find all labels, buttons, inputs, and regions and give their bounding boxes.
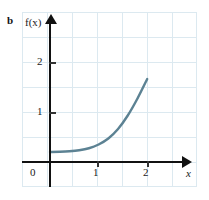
x-tick-label-0: 0 bbox=[30, 166, 36, 178]
y-tick-label-1: 1 bbox=[37, 105, 43, 117]
x-tick-label-1: 1 bbox=[93, 166, 99, 178]
x-tick-label-2: 2 bbox=[143, 166, 149, 178]
y-tick-label-2: 2 bbox=[37, 55, 43, 67]
y-axis-arrow-icon bbox=[45, 14, 57, 24]
y-axis-line bbox=[49, 24, 51, 187]
figure-panel: b f(x) x 0 1 2 1 2 bbox=[0, 0, 209, 200]
y-tick-2 bbox=[49, 62, 56, 64]
y-axis-label: f(x) bbox=[25, 16, 42, 28]
y-tick-1 bbox=[49, 112, 56, 114]
x-axis-label: x bbox=[186, 167, 191, 179]
x-axis-line bbox=[22, 161, 184, 163]
